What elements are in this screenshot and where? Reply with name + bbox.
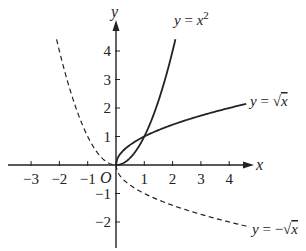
neg-sqrt-label: y = −√x [250, 221, 298, 237]
y-tick-label: 1 [104, 129, 112, 145]
x-tick-label: 3 [197, 171, 205, 187]
y-tick-label: −1 [95, 186, 111, 202]
x-tick-label: 2 [169, 171, 177, 187]
x-tick-label: 4 [225, 171, 233, 187]
y-axis-arrow-icon [113, 20, 120, 31]
curves [57, 39, 249, 226]
parabola-label: y = x2 [172, 9, 209, 28]
x-axis-arrow-icon [243, 162, 254, 169]
y-tick-label: −2 [95, 214, 111, 230]
y-tick-label: 2 [104, 100, 112, 116]
ticks: −3−2−11234−2−11234 [23, 43, 233, 230]
sqrt-label: y = √x [248, 93, 288, 109]
function-plot: −3−2−11234−2−11234 x y O y = x2 y = √x y… [0, 0, 306, 251]
curve-0 [116, 39, 175, 165]
curve-2 [116, 104, 246, 165]
x-tick-label: 1 [141, 171, 149, 187]
origin-label: O [100, 169, 112, 186]
y-tick-label: 4 [104, 43, 112, 59]
y-tick-label: 3 [104, 72, 112, 88]
axes [8, 20, 254, 248]
x-tick-label: −2 [51, 171, 67, 187]
x-axis-label: x [255, 156, 263, 173]
y-axis-label: y [109, 3, 119, 21]
x-tick-label: −3 [23, 171, 39, 187]
x-tick-label: −1 [80, 171, 96, 187]
